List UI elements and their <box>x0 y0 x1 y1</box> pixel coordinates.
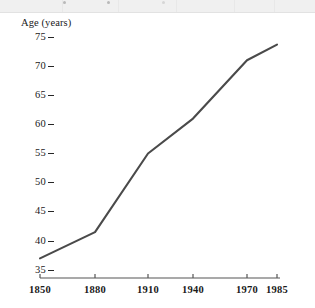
data-line-life-expectancy <box>40 45 277 259</box>
chart-figure: Age (years) 75 70 65 60 55 50 45 40 35 <box>0 0 315 308</box>
plot-area <box>0 0 315 308</box>
x-axis-tick-label: 1880 <box>84 284 106 296</box>
x-axis-tick-label: 1940 <box>182 284 204 296</box>
x-axis-tick-label: 1850 <box>29 284 51 296</box>
x-axis-tick-label: 1985 <box>266 284 288 296</box>
x-axis-tick-label: 1970 <box>236 284 258 296</box>
x-axis-tick-labels: 1850 1880 1910 1940 1970 1985 <box>0 284 315 300</box>
x-axis-tick-label: 1910 <box>137 284 159 296</box>
